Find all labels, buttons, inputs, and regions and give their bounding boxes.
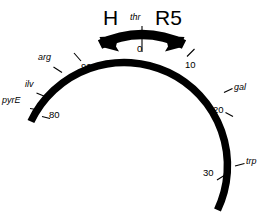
minute-label-20: 20 bbox=[213, 105, 224, 115]
minute-label-90: 90 bbox=[81, 62, 92, 72]
gene-label-gal: gal bbox=[234, 83, 246, 92]
leader-gal bbox=[224, 89, 233, 93]
minute-label-10: 10 bbox=[185, 60, 196, 70]
transfer-origin-label-h: H bbox=[103, 7, 118, 28]
tick-minute-10 bbox=[187, 49, 195, 57]
gene-label-ilv: ilv bbox=[25, 80, 34, 89]
leader-arg bbox=[54, 67, 63, 73]
chromosome-arc bbox=[31, 62, 228, 210]
genetic-map-figure: H R5 thr 0 10 gal 20 trp 30 90 arg ilv p… bbox=[0, 0, 280, 217]
minute-label-30: 30 bbox=[203, 168, 214, 178]
gene-label-arg: arg bbox=[38, 53, 51, 62]
leader-ilv bbox=[37, 93, 46, 97]
gene-label-trp: trp bbox=[246, 157, 257, 166]
leader-trp bbox=[235, 164, 245, 167]
transfer-arrowhead-right bbox=[165, 36, 185, 52]
tick-minute-90 bbox=[74, 53, 81, 61]
tick-minute-20 bbox=[226, 113, 234, 117]
chromosome-arc-graphic bbox=[0, 0, 280, 217]
minute-label-80: 80 bbox=[49, 110, 60, 120]
transfer-arrowhead-left bbox=[100, 36, 120, 52]
gene-label-pyre: pyrE bbox=[2, 96, 21, 105]
gene-label-thr: thr bbox=[130, 13, 141, 22]
transfer-origin-label-r5: R5 bbox=[155, 7, 182, 28]
minute-label-0: 0 bbox=[137, 44, 142, 54]
